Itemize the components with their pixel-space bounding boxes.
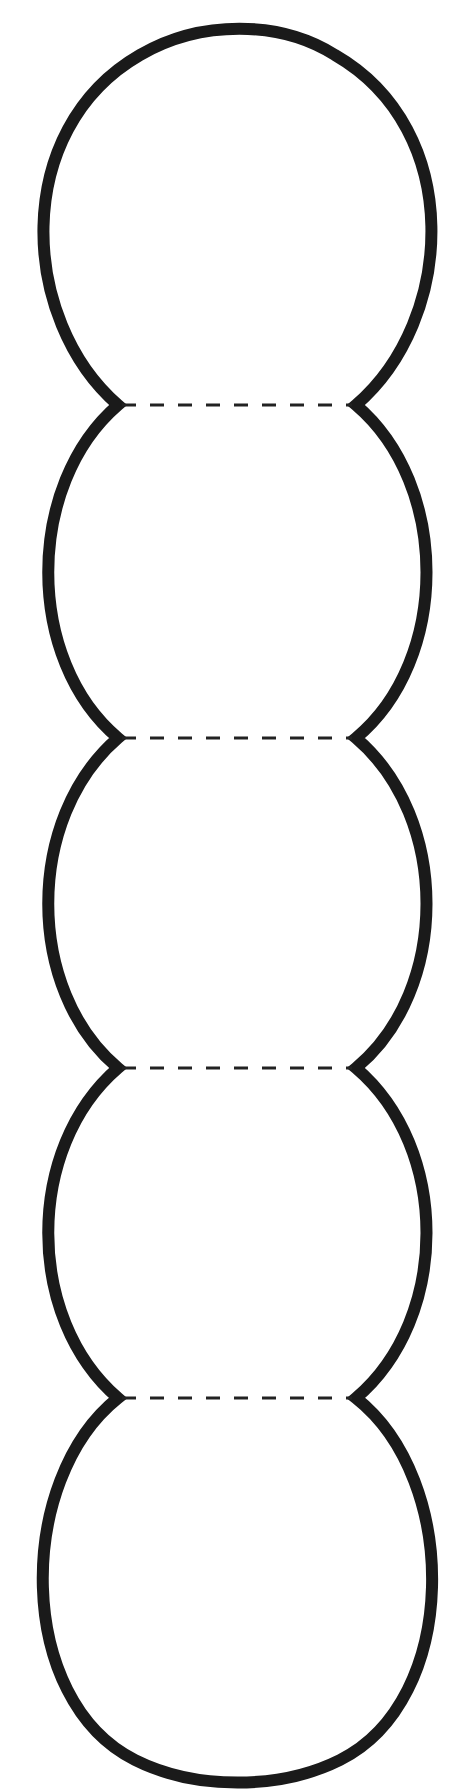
left-outline (43, 29, 432, 1783)
fold-lines (122, 405, 352, 1398)
segmented-outline-diagram (0, 0, 467, 1789)
segment-chain-outline (43, 29, 432, 1783)
